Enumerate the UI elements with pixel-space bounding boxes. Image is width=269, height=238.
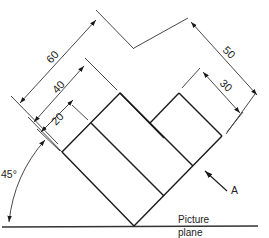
dim-label-40: 40: [50, 78, 67, 95]
dim-label-20: 20: [49, 110, 66, 127]
object-outline: [62, 93, 222, 226]
picture-plane-line: [2, 226, 258, 227]
angle-arc: 45°: [1, 140, 45, 222]
picture-plane-label-line1: Picture: [178, 214, 210, 225]
diagram-canvas: 60 40 20 50 30 45° A Picture plane: [0, 0, 269, 238]
dim-label-60: 60: [44, 48, 61, 65]
extension-lines: [11, 10, 255, 152]
dim-line-30: [203, 72, 240, 113]
angle-label: 45°: [1, 168, 17, 180]
view-arrow-label: A: [231, 184, 238, 196]
picture-plane-label-line2: plane: [178, 227, 203, 238]
view-arrow-a: A: [205, 171, 238, 196]
